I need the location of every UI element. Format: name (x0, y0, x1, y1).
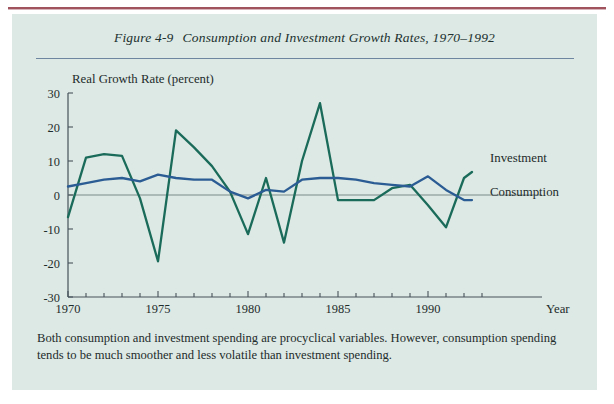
figure-page: Figure 4-9Consumption and Investment Gro… (0, 0, 614, 404)
series-label-consumption: Consumption (490, 185, 560, 199)
x-tick-label: 1990 (416, 302, 441, 316)
y-axis-title: Real Growth Rate (percent) (72, 72, 214, 86)
x-tick-label: 1970 (56, 302, 81, 316)
chart-text: 3020100-10-20-3019701975198019851990Real… (43, 72, 570, 316)
y-tick-label: -20 (43, 257, 60, 271)
series-line-investment (68, 103, 472, 261)
y-tick-label: 10 (48, 155, 60, 169)
y-tick-label: 0 (54, 189, 60, 203)
figure-caption: Both consumption and investment spending… (37, 330, 577, 363)
figure-panel: Figure 4-9Consumption and Investment Gro… (12, 14, 597, 390)
y-tick-label: 20 (48, 121, 60, 135)
x-tick-label: 1975 (146, 302, 171, 316)
x-tick-label: 1985 (326, 302, 351, 316)
y-tick-label: -10 (43, 223, 60, 237)
x-tick-label: 1980 (236, 302, 261, 316)
chart-series (68, 103, 472, 261)
x-axis-title: Year (546, 302, 570, 316)
y-tick-label: 30 (48, 87, 60, 101)
page-top-rule-shadow (8, 9, 606, 10)
series-label-investment: Investment (490, 151, 547, 165)
